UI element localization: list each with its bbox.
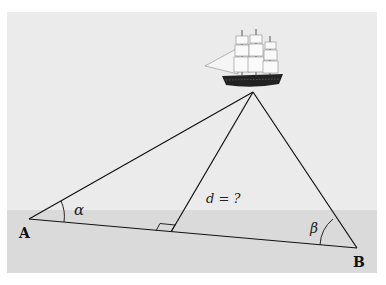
distance-label: d = ? bbox=[206, 191, 241, 206]
alpha-label: α bbox=[74, 201, 84, 219]
water-background bbox=[7, 210, 377, 273]
beta-label: β bbox=[309, 220, 318, 236]
point-a-label: A bbox=[18, 225, 31, 241]
triangulation-diagram: α β d = ? A B bbox=[0, 0, 386, 285]
point-b-label: B bbox=[353, 254, 365, 270]
